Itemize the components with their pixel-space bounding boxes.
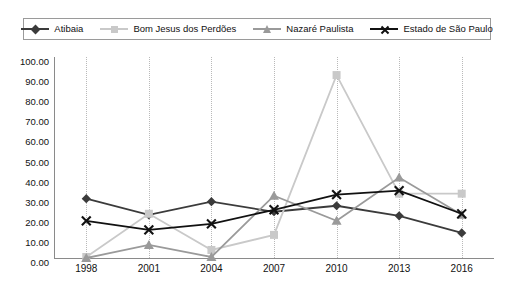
legend-label: Atibaia — [54, 24, 83, 34]
series-container — [55, 57, 493, 258]
x-axis-line — [54, 258, 494, 259]
plot-area — [55, 57, 493, 258]
x-tick-label: 2013 — [374, 263, 424, 274]
x-tick-label: 2007 — [249, 263, 299, 274]
y-tick-label: 80.00 — [3, 97, 49, 107]
y-tick-label: 30.00 — [3, 198, 49, 208]
data-point-square — [458, 190, 466, 198]
series-nazar-paulista — [81, 173, 466, 262]
y-axis-tick-labels: 0.0010.0020.0030.0040.0050.0060.0070.008… — [1, 52, 49, 264]
diamond-icon — [31, 25, 41, 35]
square-icon — [111, 26, 118, 33]
legend-marker-diamond-icon — [21, 23, 49, 35]
data-point-square — [145, 210, 153, 218]
y-tick-label: 90.00 — [3, 77, 49, 87]
legend-item-bom-jesus-dos-perdoes[interactable]: Bom Jesus dos Perdões — [100, 23, 236, 35]
line-chart: Atibaia Bom Jesus dos Perdões Nazaré Pau… — [0, 0, 516, 298]
y-tick-label: 20.00 — [3, 218, 49, 228]
x-tick-label: 1998 — [61, 263, 111, 274]
legend-marker-cross-icon — [370, 23, 398, 35]
data-point-square — [333, 71, 341, 79]
y-tick-label: 50.00 — [3, 158, 49, 168]
series-bom-jesus-dos-perd-es — [82, 71, 465, 261]
legend-label: Nazaré Paulista — [286, 24, 353, 34]
y-tick-label: 40.00 — [3, 178, 49, 188]
x-axis-tick-labels: 1998200120042007201020132016 — [0, 263, 516, 279]
data-point-diamond — [82, 194, 91, 203]
x-tick-label: 2001 — [124, 263, 174, 274]
chart-legend: Atibaia Bom Jesus dos Perdões Nazaré Pau… — [23, 18, 491, 40]
data-point-diamond — [457, 228, 466, 237]
legend-marker-square-icon — [100, 23, 128, 35]
y-tick-label: 60.00 — [3, 137, 49, 147]
legend-item-estado-de-sao-paulo[interactable]: Estado de São Paulo — [370, 23, 492, 35]
x-tick-label: 2010 — [312, 263, 362, 274]
triangle-icon — [263, 25, 271, 33]
y-tick-label: 10.00 — [3, 238, 49, 248]
data-point-triangle — [269, 191, 279, 200]
data-point-diamond — [332, 201, 341, 210]
x-tick-label: 2004 — [186, 263, 236, 274]
y-tick-label: 70.00 — [3, 117, 49, 127]
cross-icon — [381, 26, 388, 33]
legend-label: Bom Jesus dos Perdões — [133, 24, 236, 34]
data-point-diamond — [395, 211, 404, 220]
data-point-square — [270, 231, 278, 239]
legend-item-atibaia[interactable]: Atibaia — [21, 23, 83, 35]
x-tick-label: 2016 — [437, 263, 487, 274]
data-point-diamond — [207, 197, 216, 206]
legend-item-nazare-paulista[interactable]: Nazaré Paulista — [253, 23, 353, 35]
data-point-triangle — [144, 240, 154, 249]
legend-marker-triangle-icon — [253, 23, 281, 35]
y-tick-label: 100.00 — [3, 57, 49, 67]
legend-label: Estado de São Paulo — [403, 24, 492, 34]
data-point-triangle — [394, 173, 404, 182]
